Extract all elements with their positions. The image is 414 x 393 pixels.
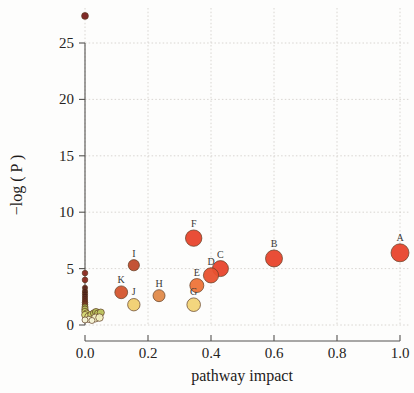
scatter-plot-figure: 0510152025 0.00.20.40.60.81.0 ABCDEFGHIJ… [0,0,414,393]
data-point-g [187,298,201,312]
plot-canvas: 0510152025 0.00.20.40.60.81.0 ABCDEFGHIJ… [0,0,414,393]
data-point [82,270,88,276]
y-tick-label: 15 [59,148,74,164]
point-label-a: A [396,232,404,243]
data-point [82,317,88,323]
point-labels: ABCDEFGHIJK [118,218,405,298]
x-axis-title: pathway impact [191,367,293,385]
data-point-k [115,286,128,299]
data-point [89,317,95,323]
data-point-j [128,298,140,310]
y-tick-label: 20 [59,91,74,107]
data-point [82,277,88,283]
point-label-b: B [271,238,278,249]
data-point-h [153,290,165,302]
y-tick-label: 0 [67,317,75,333]
x-axis: 0.00.20.40.60.81.0 [76,335,410,361]
point-label-d: D [207,256,214,267]
point-label-i: I [132,248,135,259]
point-label-g: G [190,286,197,297]
data-points [82,13,409,324]
point-label-c: C [217,249,224,260]
y-axis: 0510152025 [59,35,85,333]
data-point [82,13,89,20]
data-point [96,314,104,322]
point-label-h: H [155,278,162,289]
point-label-k: K [118,274,126,285]
x-tick-label: 0.0 [76,345,95,361]
data-point-b [266,250,283,267]
data-point-a [391,244,409,262]
data-point-i [128,260,139,271]
gridlines [85,8,410,325]
y-tick-label: 5 [67,261,75,277]
y-axis-title: −log ( P ) [8,155,26,215]
point-label-j: J [132,286,136,297]
data-point-f [185,230,201,246]
data-point-d [203,268,218,283]
y-tick-label: 25 [59,35,74,51]
y-tick-label: 10 [59,204,74,220]
x-tick-label: 0.4 [202,345,221,361]
x-tick-label: 0.2 [139,345,158,361]
point-label-f: F [191,218,197,229]
point-label-e: E [194,267,200,278]
x-tick-label: 1.0 [391,345,410,361]
x-tick-label: 0.6 [265,345,284,361]
x-tick-label: 0.8 [328,345,347,361]
